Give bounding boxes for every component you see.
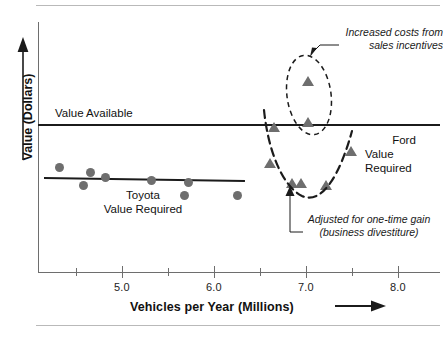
data-point-ford — [302, 117, 314, 127]
ford-value-required-label: Ford Value Required — [365, 133, 443, 175]
data-point-toyota — [101, 173, 110, 182]
data-point-ford — [345, 146, 357, 156]
x-tick-label-0: 5.0 — [102, 281, 142, 293]
data-point-ford — [295, 178, 307, 188]
y-axis-title: Value (Dollars) — [21, 42, 35, 192]
x-tick-minor-4.5 — [76, 268, 77, 276]
data-point-ford — [264, 158, 276, 168]
x-tick-minor-6.5 — [260, 268, 261, 276]
data-point-ford-outlier — [302, 76, 314, 86]
x-tick-label-3: 8.0 — [378, 281, 418, 293]
anno-top-line2: sales incentives — [369, 39, 443, 51]
adjusted-one-time-gain-annotation: Adjusted for one-time gain (business div… — [295, 213, 443, 239]
data-point-toyota — [55, 163, 64, 172]
toyota-label-line2: Value Required — [104, 203, 182, 215]
toyota-label-line1: Toyota — [126, 189, 160, 201]
x-tick-major-7.0 — [306, 266, 307, 278]
data-point-toyota — [233, 191, 242, 200]
x-axis-arrow-icon — [335, 299, 387, 313]
top-divider-rule — [36, 5, 440, 6]
data-point-toyota — [184, 178, 193, 187]
x-tick-minor-7.5 — [352, 268, 353, 276]
ford-label-line1: Ford — [365, 133, 443, 147]
data-point-toyota — [79, 181, 88, 190]
data-point-toyota — [147, 176, 156, 185]
data-point-toyota — [180, 191, 189, 200]
value-available-line — [38, 124, 440, 126]
anno-bot-line2: (business divestiture) — [319, 226, 418, 238]
x-tick-minor-5.5 — [168, 268, 169, 276]
x-tick-label-2: 7.0 — [286, 281, 326, 293]
x-tick-major-5.0 — [122, 266, 123, 278]
data-point-ford — [320, 180, 332, 190]
chart-figure: Value (Dollars) 5.0 6.0 7.0 8.0 Vehicles… — [0, 0, 443, 339]
x-axis-line — [38, 272, 440, 273]
x-axis-title: Vehicles per Year (Millions) — [130, 300, 294, 314]
y-axis-line — [38, 22, 39, 272]
data-point-ford — [268, 122, 280, 132]
bottom-divider-rule — [36, 325, 440, 326]
anno-top-line1: Increased costs from — [346, 26, 443, 38]
value-available-label: Value Available — [55, 107, 133, 119]
anno-bot-line1: Adjusted for one-time gain — [308, 213, 431, 225]
data-point-toyota — [86, 168, 95, 177]
ford-label-line2: Value Required — [365, 148, 412, 174]
increased-costs-annotation: Increased costs from sales incentives — [318, 26, 443, 52]
anno-top-arrowhead-icon — [310, 48, 317, 58]
x-tick-label-1: 6.0 — [194, 281, 234, 293]
x-tick-major-6.0 — [214, 266, 215, 278]
x-tick-major-8.0 — [398, 266, 399, 278]
toyota-value-required-line — [44, 177, 245, 182]
